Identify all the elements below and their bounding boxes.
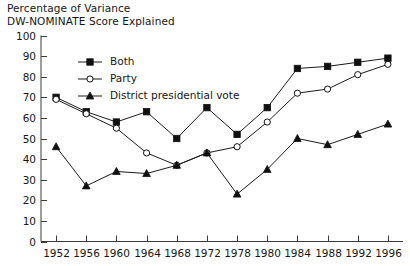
x-tick-label: 1996 bbox=[375, 247, 402, 259]
y-tick-label: 10 bbox=[23, 215, 36, 227]
data-point-marker bbox=[355, 59, 361, 65]
legend-item: District presidential vote bbox=[78, 89, 239, 101]
x-tick-label: 1978 bbox=[224, 247, 251, 259]
series-party bbox=[53, 61, 391, 168]
x-tick-label: 1964 bbox=[134, 247, 161, 259]
series-line bbox=[56, 64, 388, 165]
x-tick-label: 1956 bbox=[73, 247, 100, 259]
data-point-marker bbox=[87, 76, 93, 82]
legend-item: Party bbox=[78, 72, 137, 84]
x-tick-label: 1960 bbox=[103, 247, 130, 259]
data-point-marker bbox=[87, 59, 93, 65]
x-tick-label: 1988 bbox=[315, 247, 342, 259]
y-tick-label: 40 bbox=[23, 153, 36, 165]
series-line bbox=[56, 124, 388, 194]
data-point-marker bbox=[324, 86, 330, 92]
y-tick-label: 60 bbox=[23, 112, 36, 124]
data-point-marker bbox=[113, 167, 121, 174]
data-point-marker bbox=[264, 119, 270, 125]
y-tick-label: 20 bbox=[23, 194, 36, 206]
data-series-group bbox=[52, 55, 391, 197]
legend-label: Both bbox=[110, 55, 134, 67]
chart-figure: Percentage of Variance DW-NOMINATE Score… bbox=[0, 0, 410, 266]
data-point-marker bbox=[113, 119, 119, 125]
data-point-marker bbox=[53, 96, 59, 102]
y-axis-tick-marks bbox=[41, 37, 47, 243]
chart-plot-area: 0102030405060708090100 19521956196019641… bbox=[0, 0, 410, 266]
legend-label: Party bbox=[110, 72, 137, 84]
x-tick-label: 1972 bbox=[194, 247, 221, 259]
data-point-marker bbox=[385, 55, 391, 61]
x-tick-label: 1968 bbox=[164, 247, 191, 259]
data-point-marker bbox=[355, 72, 361, 78]
data-point-marker bbox=[294, 90, 300, 96]
series-district-presidential-vote bbox=[52, 120, 391, 197]
data-point-marker bbox=[234, 144, 240, 150]
data-point-marker bbox=[294, 135, 302, 142]
y-axis-tick-labels: 0102030405060708090100 bbox=[16, 30, 36, 248]
x-tick-label: 1952 bbox=[43, 247, 70, 259]
x-tick-label: 1992 bbox=[345, 247, 372, 259]
y-tick-label: 0 bbox=[29, 236, 36, 248]
y-tick-label: 80 bbox=[23, 71, 36, 83]
x-tick-label: 1984 bbox=[284, 247, 311, 259]
data-point-marker bbox=[204, 104, 210, 110]
x-axis-tick-marks bbox=[57, 236, 389, 242]
y-tick-label: 100 bbox=[16, 30, 36, 42]
y-tick-label: 70 bbox=[23, 91, 36, 103]
legend-item: Both bbox=[78, 55, 134, 67]
data-point-marker bbox=[324, 63, 330, 69]
data-point-marker bbox=[385, 61, 391, 67]
legend-label: District presidential vote bbox=[110, 89, 239, 101]
y-tick-label: 50 bbox=[23, 133, 36, 145]
y-tick-label: 90 bbox=[23, 50, 36, 62]
data-point-marker bbox=[294, 65, 300, 71]
data-point-marker bbox=[264, 104, 270, 110]
x-tick-label: 1980 bbox=[254, 247, 281, 259]
data-point-marker bbox=[384, 120, 392, 127]
data-point-marker bbox=[174, 135, 180, 141]
data-point-marker bbox=[143, 150, 149, 156]
data-point-marker bbox=[113, 125, 119, 131]
x-axis-tick-labels: 1952195619601964196819721978198019841988… bbox=[43, 247, 402, 259]
data-point-marker bbox=[234, 131, 240, 137]
data-point-marker bbox=[143, 109, 149, 115]
chart-legend: BothPartyDistrict presidential vote bbox=[78, 55, 239, 101]
data-point-marker bbox=[83, 111, 89, 117]
data-point-marker bbox=[52, 143, 60, 150]
y-tick-label: 30 bbox=[23, 174, 36, 186]
